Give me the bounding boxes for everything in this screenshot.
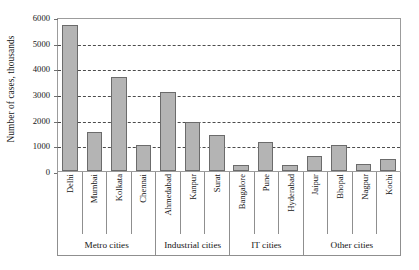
- x-axis-tick-label: Bhopal: [335, 174, 345, 199]
- x-axis-tick-label: Kanpur: [188, 174, 198, 200]
- bar[interactable]: [380, 159, 396, 171]
- group-label: Industrial cities: [164, 240, 221, 250]
- bar-cell: [376, 19, 400, 171]
- y-axis-tick-label: 4000: [33, 64, 50, 74]
- y-axis-tick-label: 2000: [33, 116, 50, 126]
- x-axis-tick-label: Bangalore: [237, 174, 247, 209]
- bar-cell: [107, 19, 131, 171]
- bar[interactable]: [62, 25, 78, 171]
- bar[interactable]: [307, 156, 323, 171]
- bar[interactable]: [258, 142, 274, 171]
- bar[interactable]: [185, 122, 201, 171]
- y-axis-title-text: Number of cases, thousands: [6, 36, 16, 143]
- bar[interactable]: [160, 92, 176, 171]
- x-axis-tick-label: Surat: [212, 174, 222, 192]
- bar[interactable]: [209, 135, 225, 171]
- bar-cell: [205, 19, 229, 171]
- y-axis-tick-label: 6000: [33, 13, 50, 23]
- bar-cell: [351, 19, 375, 171]
- category-cell: Mumbai: [82, 172, 107, 234]
- group-cell: Industrial cities: [155, 234, 229, 256]
- category-cell: Surat: [204, 172, 229, 234]
- group-label: IT cities: [251, 240, 281, 250]
- x-axis-tick-label: Pune: [261, 174, 271, 191]
- bar-cell: [253, 19, 277, 171]
- bar-cell: [82, 19, 106, 171]
- category-cell: Jaipur: [303, 172, 328, 234]
- bar[interactable]: [233, 165, 249, 171]
- bar-cell: [278, 19, 302, 171]
- x-axis-tick-label: Ahmedabad: [163, 174, 173, 216]
- category-cell: Delhi: [57, 172, 82, 234]
- y-axis-tick-label: 5000: [33, 39, 50, 49]
- x-axis-tick-label: Nagpur: [360, 174, 370, 200]
- x-axis-tick-label: Chennai: [138, 174, 148, 203]
- bar-cell: [58, 19, 82, 171]
- x-axis-tick-label: Jaipur: [310, 174, 320, 195]
- x-axis-tick-label: Hyderabad: [286, 174, 296, 212]
- group-label-band: Metro citiesIndustrial citiesIT citiesOt…: [57, 234, 401, 256]
- bar-cell: [327, 19, 351, 171]
- x-axis-tick-label: Delhi: [65, 174, 75, 193]
- category-cell: Nagpur: [352, 172, 377, 234]
- x-axis-tick-label: Kolkata: [114, 174, 124, 201]
- bar-cell: [131, 19, 155, 171]
- bar-cell: [229, 19, 253, 171]
- bar-series: [58, 19, 400, 171]
- bar-chart-figure: Number of cases, thousands 0100020003000…: [0, 0, 419, 270]
- bar-cell: [180, 19, 204, 171]
- category-cell: Ahmedabad: [155, 172, 180, 234]
- category-cell: Kolkata: [106, 172, 131, 234]
- y-axis-tick-label: 0: [46, 167, 50, 177]
- group-cell: Other cities: [303, 234, 401, 256]
- bar[interactable]: [136, 145, 152, 171]
- category-cell: Kanpur: [180, 172, 205, 234]
- y-axis-tick-labels: 0100020003000400050006000: [20, 18, 54, 172]
- x-axis-tick-label: Kochi: [384, 174, 394, 195]
- y-axis-title: Number of cases, thousands: [0, 0, 22, 178]
- category-cell: Bhopal: [327, 172, 352, 234]
- category-cell: Bangalore: [229, 172, 254, 234]
- group-label: Metro cities: [85, 240, 129, 250]
- x-axis-tick-label: Mumbai: [89, 174, 99, 203]
- y-axis-tick-label: 3000: [33, 90, 50, 100]
- plot-area: [57, 18, 401, 172]
- category-label-band: DelhiMumbaiKolkataChennaiAhmedabadKanpur…: [57, 172, 401, 234]
- category-cell: Hyderabad: [278, 172, 303, 234]
- y-axis-tick-label: 1000: [33, 141, 50, 151]
- bar[interactable]: [111, 77, 127, 171]
- bar-cell: [302, 19, 326, 171]
- category-cell: Kochi: [376, 172, 401, 234]
- bar[interactable]: [331, 145, 347, 171]
- bar[interactable]: [87, 132, 103, 171]
- group-cell: IT cities: [229, 234, 303, 256]
- bar-cell: [156, 19, 180, 171]
- group-cell: Metro cities: [57, 234, 155, 256]
- bar[interactable]: [356, 164, 372, 171]
- bar[interactable]: [282, 165, 298, 171]
- category-cell: Chennai: [131, 172, 156, 234]
- group-label: Other cities: [331, 240, 374, 250]
- category-cell: Pune: [254, 172, 279, 234]
